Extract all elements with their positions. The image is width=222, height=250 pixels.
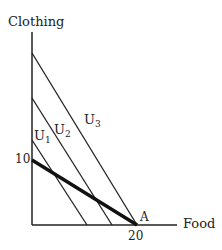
u2-label: U2 <box>54 122 71 139</box>
y-tick-10: 10 <box>15 152 30 166</box>
curve-u1 <box>32 140 87 225</box>
u3-label: U3 <box>84 112 101 129</box>
budget-line <box>32 160 137 225</box>
indifference-curve-diagram: Clothing Food 10 20 A U1 U2 U3 <box>0 0 222 250</box>
x-tick-20: 20 <box>128 229 143 243</box>
u1-label: U1 <box>34 128 51 145</box>
point-a-label: A <box>139 210 149 224</box>
curve-u2 <box>32 98 112 225</box>
x-axis-label: Food <box>183 216 215 231</box>
y-axis-label: Clothing <box>8 14 64 29</box>
